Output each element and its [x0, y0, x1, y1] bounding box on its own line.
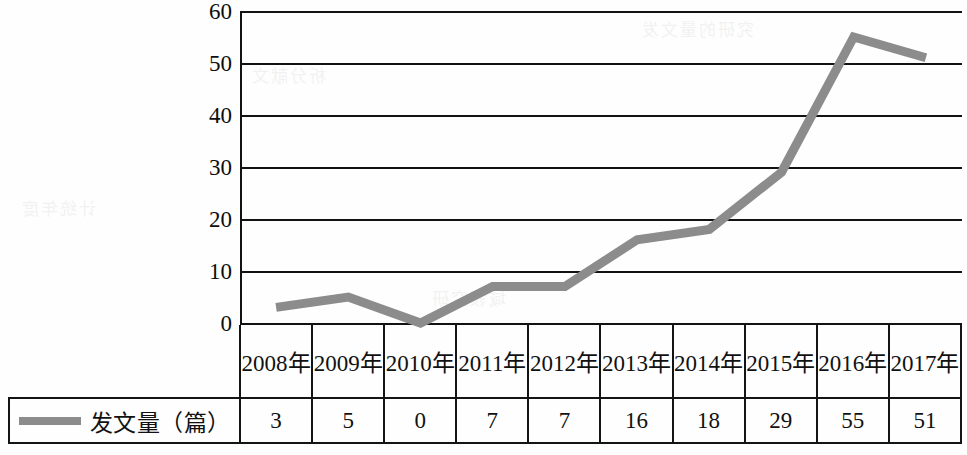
bleed-artifact-3: 计统年度 [20, 195, 96, 220]
header-cell-2014: 2014年 [673, 325, 745, 398]
y-tick-20: 20 [186, 208, 232, 231]
header-cell-2009: 2009年 [312, 325, 384, 398]
y-tick-10: 10 [186, 260, 232, 283]
table-value-row: 发文量（篇） 3 5 0 7 7 16 18 29 55 51 [9, 398, 961, 443]
figure-chart-with-data-table: 究研的量文发 析分献文 计统年度 域领究研 60 50 40 30 20 10 … [0, 0, 967, 455]
header-cell-2016: 2016年 [817, 325, 889, 398]
value-cell-2016: 55 [817, 398, 889, 443]
legend-label: 发文量（篇） [90, 404, 231, 438]
header-cell-2010: 2010年 [384, 325, 456, 398]
y-tick-40: 40 [186, 104, 232, 127]
table-header-row: 2008年 2009年 2010年 2011年 2012年 2013年 2014… [9, 325, 961, 398]
value-cell-2013: 16 [600, 398, 672, 443]
value-cell-2010: 0 [384, 398, 456, 443]
value-cell-2012: 7 [528, 398, 600, 443]
series-line-fawenliang [240, 11, 962, 323]
legend-line-icon [19, 417, 81, 425]
y-tick-60: 60 [186, 0, 232, 23]
header-cell-2015: 2015年 [745, 325, 817, 398]
y-axis-tick-labels: 60 50 40 30 20 10 0 [186, 11, 232, 323]
header-cell-2017: 2017年 [889, 325, 961, 398]
header-cell-2012: 2012年 [528, 325, 600, 398]
legend-cell: 发文量（篇） [9, 398, 240, 443]
value-cell-2017: 51 [889, 398, 961, 443]
value-cell-2015: 29 [745, 398, 817, 443]
header-cell-2008: 2008年 [240, 325, 312, 398]
value-cell-2009: 5 [312, 398, 384, 443]
header-blank-cell [9, 325, 240, 398]
plot-area [240, 11, 962, 323]
header-cell-2011: 2011年 [456, 325, 528, 398]
header-cell-2013: 2013年 [600, 325, 672, 398]
y-tick-50: 50 [186, 52, 232, 75]
value-cell-2011: 7 [456, 398, 528, 443]
data-table: 2008年 2009年 2010年 2011年 2012年 2013年 2014… [8, 325, 962, 444]
y-tick-30: 30 [186, 156, 232, 179]
value-cell-2008: 3 [240, 398, 312, 443]
value-cell-2014: 18 [673, 398, 745, 443]
